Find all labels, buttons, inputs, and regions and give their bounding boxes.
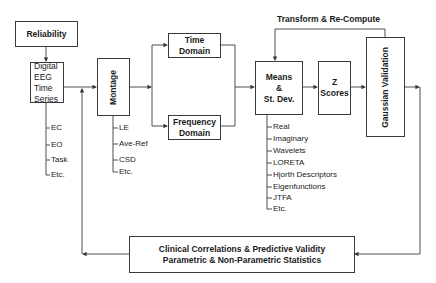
time-domain-box: Time Domain [168, 33, 221, 58]
clinical-correlations-box: Clinical Correlations & Predictive Valid… [129, 236, 355, 273]
frequency-label-1: Frequency [173, 117, 216, 128]
montage-etc: Etc. [119, 167, 133, 177]
z-line-2: Scores [320, 88, 348, 99]
measure-wavelets: Wavelets [273, 146, 306, 156]
means-line-1: Means [266, 72, 292, 83]
condition-ec: EC [51, 123, 62, 133]
frequency-domain-box: Frequency Domain [168, 115, 221, 140]
montage-label: Montage [108, 70, 119, 105]
measure-eigenfunctions: Eigenfunctions [273, 182, 325, 192]
clinical-line-1: Clinical Correlations & Predictive Valid… [159, 244, 325, 255]
montage-ave-ref: Ave-Ref [119, 139, 148, 149]
condition-etc: Etc. [51, 170, 65, 180]
measure-hjorth: Hjorth Descriptors [273, 170, 337, 180]
measure-loreta: LORETA [273, 158, 304, 168]
condition-task: Task [51, 155, 67, 165]
montage-box: Montage [97, 58, 130, 116]
gaussian-label: Gaussian Validation [380, 47, 391, 128]
montage-csd: CSD [119, 155, 136, 165]
measure-etc: Etc. [273, 204, 287, 214]
time-domain-label: Time Domain [169, 35, 220, 57]
z-scores-box: Z Scores [318, 61, 351, 115]
reliability-label: Reliability [26, 29, 66, 40]
eeg-line-1: Digital [34, 61, 58, 72]
eeg-line-2: EEG [34, 72, 52, 83]
means-stdev-box: Means & St. Dev. [255, 61, 303, 115]
measure-jtfa: JTFA [273, 193, 292, 203]
z-line-1: Z [332, 77, 337, 88]
eeg-line-3: Time [34, 83, 53, 94]
measure-imaginary: Imaginary [273, 134, 308, 144]
gaussian-validation-box: Gaussian Validation [366, 37, 405, 137]
digital-eeg-box: Digital EEG Time Series [30, 62, 64, 103]
means-line-2: & [276, 83, 282, 94]
frequency-label-2: Domain [179, 128, 210, 139]
means-line-3: St. Dev. [264, 94, 295, 105]
measure-real: Real [273, 122, 289, 132]
transform-recompute-label: Transform & Re-Compute [277, 14, 380, 24]
clinical-line-2: Parametric & Non-Parametric Statistics [163, 255, 321, 266]
condition-eo: EO [51, 140, 63, 150]
montage-le: LE [119, 123, 129, 133]
eeg-line-4: Series [34, 94, 58, 105]
reliability-box: Reliability [15, 21, 78, 47]
